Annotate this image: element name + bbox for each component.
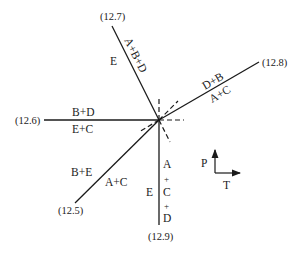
assemblage-12-6-top: B+D <box>72 106 94 118</box>
reaction-label-12-5: (12.5) <box>58 205 84 217</box>
assemblage-12-9-left: E <box>146 186 153 198</box>
assemblage-12-5-right: A+C <box>105 176 128 188</box>
reaction-label-12-8: (12.8) <box>262 57 288 69</box>
t-axis-label: T <box>223 179 230 191</box>
reaction-line-12-8 <box>159 62 259 120</box>
pt-axes-indicator <box>215 150 240 173</box>
reaction-diagram: (12.7) E A+B+D (12.8) D+B A+C (12.6) B+D… <box>0 0 299 255</box>
reaction-label-12-6: (12.6) <box>15 115 41 127</box>
p-axis-label: P <box>201 157 207 169</box>
assemblage-12-5-left: B+E <box>71 166 92 178</box>
assemblage-12-6-bottom: E+C <box>72 123 94 135</box>
assemblage-12-9-right-plus1: + <box>164 174 169 184</box>
assemblage-12-9-right-a: A <box>163 158 172 170</box>
assemblage-12-9-right-plus2: + <box>164 201 169 211</box>
assemblage-12-9-right-c: C <box>163 186 171 198</box>
metastable-12-7 <box>159 120 170 142</box>
reaction-label-12-7: (12.7) <box>100 11 126 23</box>
assemblage-12-9-right: A + C + D <box>163 158 172 224</box>
assemblage-12-9-right-d: D <box>163 212 171 224</box>
reaction-label-12-9: (12.9) <box>148 231 174 243</box>
assemblage-12-7-left: E <box>110 55 117 67</box>
